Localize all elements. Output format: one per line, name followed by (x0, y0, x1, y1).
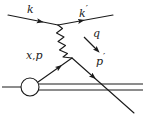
label-xp-p: p (35, 49, 42, 62)
diagram-canvas (0, 0, 144, 116)
label-pprime-mark: ′ (103, 51, 105, 62)
label-outgoing-lepton: k′ (79, 4, 88, 19)
label-virtual-photon: q (93, 28, 100, 39)
label-incoming-lepton: k (27, 4, 34, 15)
label-pprime-base: p (96, 55, 103, 68)
label-q-text: q (93, 27, 100, 40)
struck-quark-line (38, 58, 72, 82)
feynman-diagram-figure: k k′ q x,p p′ (0, 0, 144, 116)
label-kprime-base: k (79, 7, 86, 20)
label-k-text: k (27, 3, 34, 16)
label-struck-quark-momentum: x,p (26, 50, 42, 61)
label-outgoing-quark: p′ (96, 52, 105, 67)
virtual-photon-wavy-line (57, 25, 73, 58)
label-kprime-mark: ′ (86, 3, 88, 14)
hadron-blob-circle (21, 78, 39, 96)
